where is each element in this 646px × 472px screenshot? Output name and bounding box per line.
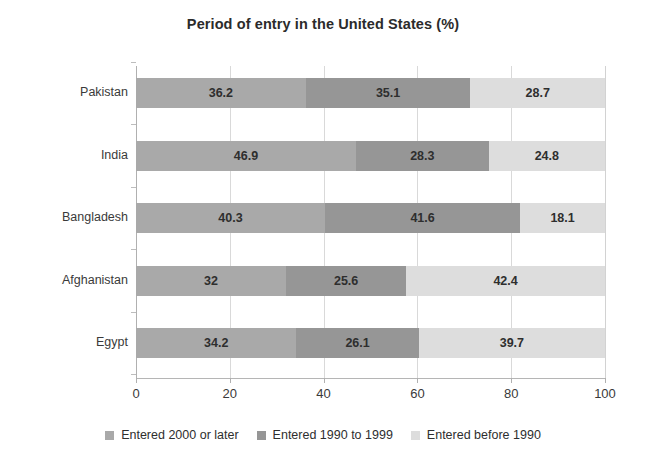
bar-value-label: 18.1 xyxy=(550,211,574,225)
x-axis-tick xyxy=(136,378,137,383)
category-label: Egypt xyxy=(6,335,128,349)
bar-row: 36.235.128.7 xyxy=(136,78,605,108)
bar-segment[interactable]: 41.6 xyxy=(325,203,520,233)
bar-value-label: 28.7 xyxy=(526,86,550,100)
x-axis-line xyxy=(136,378,606,379)
chart-title: Period of entry in the United States (%) xyxy=(0,16,646,32)
bar-value-label: 35.1 xyxy=(376,86,400,100)
chart-container: Period of entry in the United States (%)… xyxy=(0,0,646,472)
bar-value-label: 28.3 xyxy=(410,149,434,163)
bar-segment[interactable]: 46.9 xyxy=(136,141,356,171)
bar-row: 46.928.324.8 xyxy=(136,141,605,171)
bar-row: 40.341.618.1 xyxy=(136,203,605,233)
bar-value-label: 25.6 xyxy=(334,274,358,288)
bar-segment[interactable]: 35.1 xyxy=(306,78,471,108)
bar-value-label: 32 xyxy=(204,274,218,288)
legend-item[interactable]: Entered before 1990 xyxy=(411,428,541,442)
bar-segment[interactable]: 39.7 xyxy=(419,328,605,358)
category-label: India xyxy=(6,148,128,162)
bar-value-label: 39.7 xyxy=(500,336,524,350)
bar-row: 3225.642.4 xyxy=(136,266,605,296)
bar-segment[interactable]: 28.7 xyxy=(470,78,605,108)
legend-label: Entered before 1990 xyxy=(427,428,541,442)
bar-segment[interactable]: 25.6 xyxy=(286,266,406,296)
bar-value-label: 46.9 xyxy=(234,149,258,163)
y-axis-tick xyxy=(131,249,136,250)
bar-segment[interactable]: 18.1 xyxy=(520,203,605,233)
bar-segment[interactable]: 28.3 xyxy=(356,141,489,171)
bar-value-label: 24.8 xyxy=(535,149,559,163)
category-label: Afghanistan xyxy=(6,273,128,287)
bar-segment[interactable]: 42.4 xyxy=(406,266,605,296)
x-axis-tick xyxy=(605,378,606,383)
y-axis-tick xyxy=(131,124,136,125)
x-axis-tick-label: 40 xyxy=(301,386,347,401)
bar-segment[interactable]: 34.2 xyxy=(136,328,296,358)
y-axis-tick xyxy=(131,62,136,63)
bar-value-label: 36.2 xyxy=(209,86,233,100)
bar-row: 34.226.139.7 xyxy=(136,328,605,358)
x-axis-tick-label: 100 xyxy=(582,386,628,401)
legend-item[interactable]: Entered 2000 or later xyxy=(105,428,238,442)
bar-segment[interactable]: 24.8 xyxy=(489,141,605,171)
bar-value-label: 26.1 xyxy=(345,336,369,350)
bar-value-label: 40.3 xyxy=(218,211,242,225)
category-label: Bangladesh xyxy=(6,210,128,224)
legend-item[interactable]: Entered 1990 to 1999 xyxy=(257,428,393,442)
x-axis-tick xyxy=(417,378,418,383)
x-axis-tick-label: 0 xyxy=(113,386,159,401)
bar-segment[interactable]: 40.3 xyxy=(136,203,325,233)
y-axis-tick xyxy=(131,374,136,375)
y-axis-tick xyxy=(131,187,136,188)
bar-value-label: 42.4 xyxy=(493,274,517,288)
x-axis-tick xyxy=(230,378,231,383)
category-label: Pakistan xyxy=(6,85,128,99)
chart-legend: Entered 2000 or laterEntered 1990 to 199… xyxy=(0,428,646,442)
x-axis-tick-label: 60 xyxy=(394,386,440,401)
x-axis-tick xyxy=(511,378,512,383)
x-axis-tick-label: 20 xyxy=(207,386,253,401)
x-axis-tick xyxy=(324,378,325,383)
legend-label: Entered 1990 to 1999 xyxy=(273,428,393,442)
y-axis-tick xyxy=(131,312,136,313)
legend-label: Entered 2000 or later xyxy=(121,428,238,442)
legend-swatch-icon xyxy=(257,431,266,440)
legend-swatch-icon xyxy=(411,431,420,440)
bar-segment[interactable]: 32 xyxy=(136,266,286,296)
gridline xyxy=(605,66,606,378)
bar-value-label: 34.2 xyxy=(204,336,228,350)
bar-segment[interactable]: 26.1 xyxy=(296,328,418,358)
bar-value-label: 41.6 xyxy=(410,211,434,225)
legend-swatch-icon xyxy=(105,431,114,440)
x-axis-tick-label: 80 xyxy=(488,386,534,401)
bar-segment[interactable]: 36.2 xyxy=(136,78,306,108)
